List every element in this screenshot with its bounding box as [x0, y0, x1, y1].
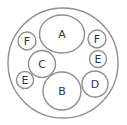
outer-circle	[8, 8, 118, 118]
circle-d: D	[82, 71, 108, 97]
circle-f-right-label: F	[94, 33, 100, 46]
circle-f-right: F	[88, 30, 106, 48]
circle-f-left-label: F	[24, 35, 30, 48]
circle-e-right: E	[90, 51, 107, 68]
circle-e-right-label: E	[95, 53, 102, 66]
circle-c-label: C	[38, 58, 46, 71]
circle-b-label: B	[58, 85, 66, 98]
nested-circles-diagram: A F F E C E B D	[0, 0, 127, 125]
circle-e-left-label: E	[22, 74, 29, 87]
circle-a: A	[40, 15, 85, 53]
circle-b: B	[43, 72, 81, 110]
circle-c: C	[29, 51, 56, 78]
circle-e-left: E	[17, 72, 34, 89]
circle-f-left: F	[18, 32, 36, 50]
circle-d-label: D	[91, 78, 99, 91]
circle-a-label: A	[58, 28, 66, 41]
